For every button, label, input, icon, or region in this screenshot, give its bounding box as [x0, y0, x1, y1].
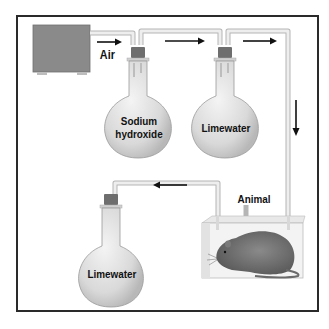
arrow-right-icon	[243, 38, 277, 45]
apparatus-drawing	[0, 0, 329, 329]
animal-label: Animal	[234, 193, 274, 205]
air-label: Air	[100, 49, 115, 61]
limewater-label-top: Limewater	[199, 122, 253, 134]
air-pump	[33, 25, 90, 75]
arrow-down-icon	[293, 100, 300, 136]
limewater-label-bottom: Limewater	[85, 268, 139, 280]
flask-limewater-1	[192, 47, 259, 158]
arrow-right-icon	[97, 39, 122, 46]
flask-sodium-hydroxide	[105, 47, 172, 158]
sodium-hydroxide-label-line1: Sodium	[120, 115, 158, 127]
flask-limewater-2	[79, 194, 144, 307]
sodium-hydroxide-label-line2: hydroxide	[115, 128, 164, 140]
arrow-right-icon	[165, 38, 205, 45]
